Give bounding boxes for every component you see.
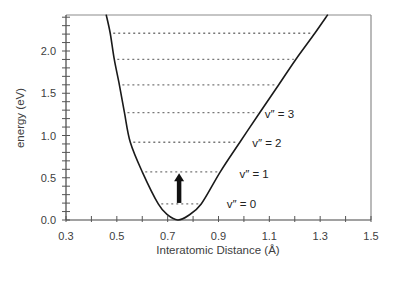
x-tick-label: 0.5: [109, 230, 124, 242]
x-tick-label: 1.1: [262, 230, 277, 242]
x-tick-label: 0.9: [211, 230, 226, 242]
y-tick-label: 1.5: [41, 87, 56, 99]
x-tick-label: 0.3: [58, 230, 73, 242]
vibrational-level-label: v″ = 0: [227, 198, 256, 210]
x-axis-title: Interatomic Distance (Å): [156, 244, 280, 256]
x-tick-label: 1.3: [313, 230, 328, 242]
vibrational-level-label: v″ = 2: [252, 137, 281, 149]
y-tick-label: 0.5: [41, 172, 56, 184]
y-tick-label: 2.0: [41, 45, 56, 57]
vibrational-level-label: v″ = 1: [239, 168, 268, 180]
x-tick-label: 1.5: [363, 230, 378, 242]
potential-energy-chart: 0.00.51.01.52.00.30.50.70.91.11.31.5 v″ …: [0, 0, 397, 281]
y-axis-title: energy (eV): [14, 88, 26, 148]
y-tick-label: 0.0: [41, 214, 56, 226]
x-tick-label: 0.7: [160, 230, 175, 242]
vibrational-level-label: v″ = 3: [265, 108, 294, 120]
y-tick-label: 1.0: [41, 130, 56, 142]
excitation-arrow-icon: [174, 173, 184, 203]
arrow-head: [174, 173, 184, 181]
axis-ticks: 0.00.51.01.52.00.30.50.70.91.11.31.5: [41, 17, 379, 242]
level-labels: v″ = 0v″ = 1v″ = 2v″ = 3: [227, 108, 294, 210]
potential-curve: [106, 15, 328, 220]
